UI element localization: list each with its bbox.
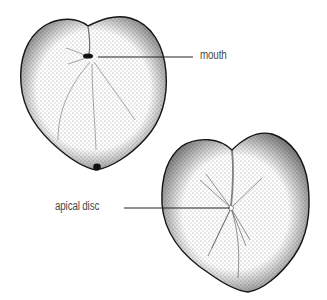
urchin-illustration: mouth apical disc bbox=[0, 0, 327, 300]
urchin-aboral-view bbox=[124, 133, 309, 292]
apical-disc-label: apical disc bbox=[55, 200, 99, 212]
mouth-label: mouth bbox=[200, 49, 227, 61]
periproct-marker bbox=[93, 164, 101, 171]
mouth-marker bbox=[83, 53, 93, 58]
urchin-oral-view bbox=[21, 17, 193, 171]
